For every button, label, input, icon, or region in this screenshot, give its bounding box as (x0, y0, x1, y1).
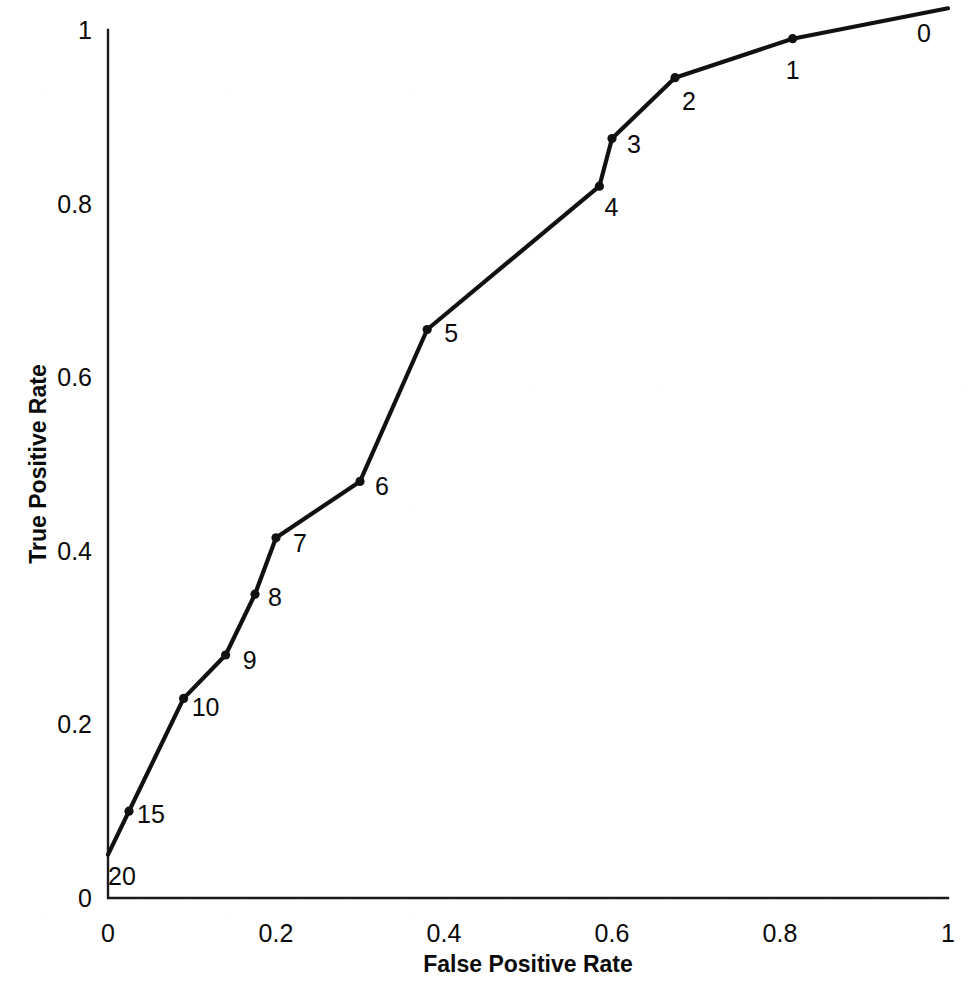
roc-marker (788, 34, 797, 43)
roc-chart: 00.20.40.60.81 00.20.40.60.81 2015109876… (0, 0, 972, 997)
roc-point-label: 0 (917, 19, 931, 47)
roc-curve-line (108, 8, 948, 854)
roc-marker (670, 73, 679, 82)
x-tick-label: 0.2 (259, 919, 294, 947)
roc-point-label: 2 (682, 87, 696, 115)
roc-marker (355, 477, 364, 486)
roc-plot-canvas: 00.20.40.60.81 00.20.40.60.81 2015109876… (0, 0, 972, 997)
axis-lines (108, 30, 948, 898)
roc-marker (271, 533, 280, 542)
y-tick-label: 0.8 (57, 190, 92, 218)
roc-point-label: 1 (786, 56, 800, 84)
roc-marker (423, 325, 432, 334)
roc-marker (250, 590, 259, 599)
roc-marker (221, 650, 230, 659)
x-tick-label: 0 (101, 919, 115, 947)
roc-data-point-markers (124, 34, 797, 816)
x-tick-label: 0.6 (595, 919, 630, 947)
roc-point-label: 15 (137, 800, 165, 828)
y-axis-tick-labels: 00.20.40.60.81 (57, 16, 92, 912)
y-tick-label: 0.4 (57, 537, 92, 565)
roc-point-label: 8 (268, 583, 282, 611)
x-axis-title: False Positive Rate (423, 951, 633, 977)
roc-point-label: 4 (604, 193, 618, 221)
y-tick-label: 1 (78, 16, 92, 44)
y-tick-label: 0 (78, 884, 92, 912)
y-axis-title: True Positive Rate (25, 364, 51, 563)
roc-point-label: 5 (444, 319, 458, 347)
roc-point-label: 7 (293, 529, 307, 557)
y-tick-label: 0.6 (57, 363, 92, 391)
y-tick-label: 0.2 (57, 710, 92, 738)
roc-marker (124, 807, 133, 816)
roc-point-label: 9 (243, 646, 257, 674)
roc-marker (179, 694, 188, 703)
x-tick-label: 0.4 (427, 919, 462, 947)
roc-point-label: 20 (108, 862, 136, 890)
roc-marker (607, 134, 616, 143)
roc-point-annotations: 2015109876543210 (108, 19, 931, 889)
x-axis-tick-labels: 00.20.40.60.81 (101, 919, 955, 947)
roc-marker (595, 182, 604, 191)
x-tick-label: 0.8 (763, 919, 798, 947)
roc-point-label: 10 (192, 693, 220, 721)
roc-point-label: 3 (627, 130, 641, 158)
roc-point-label: 6 (375, 472, 389, 500)
x-tick-label: 1 (941, 919, 955, 947)
